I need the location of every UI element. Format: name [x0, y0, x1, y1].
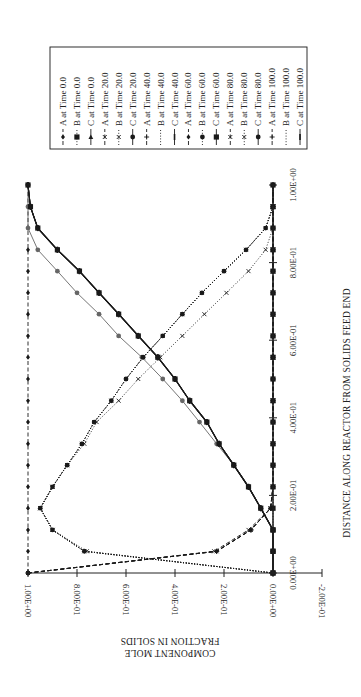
legend-label: A at Time 80.0 [225, 72, 235, 126]
series-a-at-time-20-0 [26, 183, 275, 575]
legend-label: A at Time 0.0 [58, 76, 68, 126]
circle-marker-icon [130, 135, 135, 140]
distance-tick-label: 6.00E-01 [288, 324, 298, 355]
y-axis-title-line1: COMPONENT MOLE [124, 648, 215, 658]
legend-label: B at Time 0.0 [72, 76, 82, 126]
diamond-marker-icon [26, 355, 30, 360]
series-c-at-time-80-0 [26, 183, 276, 576]
series-a-at-time-0-0 [26, 182, 30, 575]
bar-marker-icon [233, 462, 235, 468]
legend: A at Time 0.0B at Time 0.0C at Time 0.0A… [50, 47, 307, 149]
x-marker-icon [224, 291, 228, 295]
axes: 1.00E+008.00E-016.00E-014.00E-012.00E-01… [23, 168, 327, 618]
value-tick-label: 4.00E-01 [170, 584, 180, 615]
diamond-marker-icon [26, 376, 30, 381]
distance-tick-label: 1.00E+00 [288, 168, 298, 201]
series-b-at-time-60-0 [38, 183, 276, 576]
series-a-at-time-40-0 [26, 183, 276, 576]
circle-marker-icon [97, 312, 102, 317]
series-b-at-time-80-0 [38, 183, 275, 575]
legend-label: C at Time 0.0 [86, 76, 96, 126]
bar-marker-icon [27, 182, 29, 188]
bar-marker-icon [174, 376, 176, 382]
bar-marker-icon [174, 134, 176, 140]
plot-area [25, 182, 275, 576]
square-marker-icon [74, 134, 79, 139]
legend-label: C at Time 100.0 [295, 67, 305, 126]
diamond-marker-icon [26, 527, 30, 532]
legend-label: B at Time 40.0 [156, 72, 166, 126]
value-tick-label: -2.00E-01 [317, 584, 327, 618]
diamond-marker-icon [26, 312, 30, 317]
x-marker-icon [247, 269, 251, 273]
series-a-at-time-80-0 [26, 183, 275, 575]
distance-tick-label: 2.00E-01 [288, 480, 298, 511]
circle-marker-icon [35, 247, 40, 252]
legend-label: A at Time 100.0 [267, 67, 277, 126]
circle-marker-icon [75, 290, 80, 295]
diamond-marker-icon [26, 506, 30, 511]
distance-tick-label: 4.00E-01 [288, 402, 298, 433]
legend-label: C at Time 80.0 [253, 72, 263, 126]
bar-marker-icon [260, 505, 262, 511]
x-marker-icon [264, 248, 268, 252]
series-b-at-time-100-0 [40, 185, 273, 573]
diamond-marker-icon [26, 549, 30, 554]
diamond-marker-icon [26, 398, 30, 403]
circle-marker-icon [55, 269, 60, 274]
legend-label: B at Time 20.0 [114, 72, 124, 126]
bar-marker-icon [98, 290, 100, 296]
diamond-marker-icon [26, 463, 30, 468]
value-tick-label: 0.00E+00 [268, 584, 278, 617]
bar-marker-icon [37, 225, 39, 231]
x-marker-icon [136, 377, 140, 381]
distance-tick-label: 8.00E-01 [288, 247, 298, 278]
series-b-at-time-20-0 [38, 183, 275, 575]
legend-label: A at Time 60.0 [183, 72, 193, 126]
value-tick-label: 1.00E+00 [23, 584, 33, 617]
circle-marker-icon [160, 377, 165, 382]
bar-marker-icon [118, 311, 120, 317]
x-marker-icon [202, 312, 206, 316]
x-marker-icon [117, 399, 121, 403]
diamond-marker-icon [26, 484, 30, 489]
circle-marker-icon [200, 135, 205, 140]
value-tick-label: 2.00E-01 [219, 584, 229, 615]
series-c-at-time-40-0 [27, 182, 274, 576]
x-marker-icon [180, 334, 184, 338]
legend-label: C at Time 40.0 [170, 72, 180, 126]
bar-marker-icon [79, 268, 81, 274]
bar-marker-icon [30, 204, 32, 210]
bar-marker-icon [189, 398, 191, 404]
value-tick-label: 8.00E-01 [72, 584, 82, 615]
series-a-at-time-60-0 [26, 182, 275, 575]
series-c-at-time-20-0 [26, 183, 276, 576]
circle-marker-icon [26, 226, 31, 231]
distance-tick-label: 0.00E+00 [288, 556, 298, 589]
series-a-at-time-100-0 [26, 183, 276, 576]
x-axis-title: DISTANCE ALONG REACTOR FROM SOLIDS FEED … [342, 288, 352, 537]
bar-marker-icon [57, 247, 59, 253]
circle-marker-icon [180, 398, 185, 403]
legend-label: C at Time 20.0 [128, 72, 138, 126]
series-c-at-time-100-0 [27, 182, 274, 576]
legend-label: B at Time 80.0 [239, 72, 249, 126]
chart: 1.00E+008.00E-016.00E-014.00E-012.00E-01… [0, 0, 361, 697]
bar-marker-icon [137, 333, 139, 339]
series-b-at-time-40-0 [40, 185, 273, 573]
diamond-marker-icon [26, 290, 30, 295]
legend-label: A at Time 40.0 [142, 72, 152, 126]
circle-marker-icon [116, 334, 121, 339]
value-tick-label: 6.00E-01 [121, 584, 131, 615]
bar-marker-icon [248, 484, 250, 490]
legend-label: A at Time 20.0 [100, 72, 110, 126]
bar-marker-icon [218, 441, 220, 447]
legend-label: B at Time 100.0 [281, 67, 291, 126]
legend-label: C at Time 60.0 [211, 72, 221, 126]
bar-marker-icon [206, 419, 208, 425]
circle-marker-icon [197, 420, 202, 425]
diamond-marker-icon [26, 441, 30, 446]
diamond-marker-icon [26, 247, 30, 252]
bar-marker-icon [299, 134, 301, 140]
diamond-marker-icon [26, 333, 30, 338]
